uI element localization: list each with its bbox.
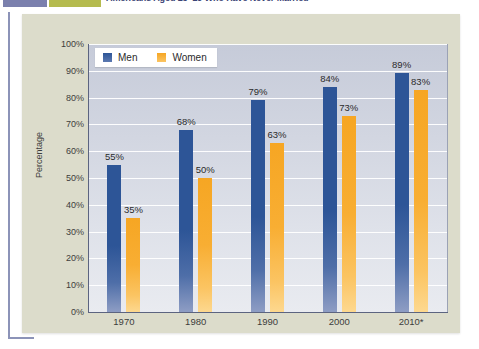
page-left-rule: [8, 12, 10, 337]
y-axis-tick-label: 50%: [40, 173, 84, 183]
bar-value-label: 79%: [241, 86, 275, 97]
x-axis-tick-label: 1970: [88, 316, 160, 327]
bar-men-1980: [179, 130, 193, 312]
y-axis-tick-label: 70%: [40, 119, 84, 129]
bar-value-label: 63%: [260, 129, 294, 140]
bar-women-1990: [270, 143, 284, 312]
legend-swatch-icon: [157, 53, 166, 62]
y-axis-tick-label: 100%: [40, 39, 84, 49]
x-axis-tick-label: 2010*: [375, 316, 447, 327]
bar-value-label: 73%: [332, 102, 366, 113]
y-axis: Percentage 100%90%80%70%60%50%40%30%20%1…: [38, 0, 84, 349]
bar-women-1970: [126, 218, 140, 312]
x-axis-tick-label: 1980: [160, 316, 232, 327]
bar-men-1970: [107, 165, 121, 312]
bars-layer: 55%35%68%50%79%63%84%73%89%83%: [88, 44, 447, 312]
bar-men-2010: [395, 73, 409, 312]
bar-women-2000: [342, 116, 356, 312]
legend-label: Women: [172, 52, 206, 63]
y-axis-tick-label: 60%: [40, 146, 84, 156]
y-axis-tick-label: 80%: [40, 93, 84, 103]
bar-value-label: 83%: [404, 76, 438, 87]
x-axis-line: [88, 312, 448, 313]
y-axis-tick-label: 10%: [40, 280, 84, 290]
x-axis: 19701980199020002010*: [88, 316, 447, 332]
y-axis-tick-label: 90%: [40, 66, 84, 76]
y-axis-tick-label: 0%: [40, 307, 84, 317]
y-axis-tick-label: 20%: [40, 253, 84, 263]
legend-item-men: Men: [103, 52, 137, 63]
page-title: Americans Aged 25–29 Who Have Never Marr…: [106, 0, 446, 3]
bar-value-label: 35%: [116, 204, 150, 215]
legend-swatch-icon: [103, 53, 112, 62]
bar-value-label: 89%: [385, 59, 419, 70]
bar-men-2000: [323, 87, 337, 312]
x-axis-tick-label: 1990: [232, 316, 304, 327]
page-bottom-rule: [8, 337, 34, 339]
bar-value-label: 55%: [97, 151, 131, 162]
bar-women-2010: [414, 90, 428, 312]
bar-women-1980: [198, 178, 212, 312]
legend-label: Men: [118, 52, 137, 63]
y-axis-tick-label: 30%: [40, 227, 84, 237]
bar-value-label: 84%: [313, 73, 347, 84]
chart-legend: MenWomen: [95, 48, 217, 67]
legend-item-women: Women: [157, 52, 206, 63]
x-axis-tick-label: 2000: [303, 316, 375, 327]
bar-value-label: 50%: [188, 164, 222, 175]
y-axis-tick-label: 40%: [40, 200, 84, 210]
bar-value-label: 68%: [169, 116, 203, 127]
